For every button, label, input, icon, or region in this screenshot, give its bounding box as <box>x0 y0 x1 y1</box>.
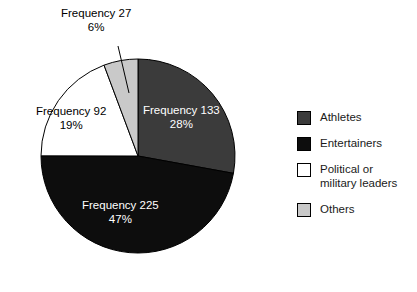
legend-item-others: Others <box>297 202 417 217</box>
legend-item-entertainers: Entertainers <box>297 136 417 151</box>
legend-label-entertainers: Entertainers <box>320 136 382 150</box>
pie-chart-svg <box>0 0 270 292</box>
chart-legend: Athletes Entertainers Political or milit… <box>297 110 417 228</box>
legend-item-political-military-leaders: Political or military leaders <box>297 162 417 191</box>
pie-slice-athletes <box>138 59 235 173</box>
legend-swatch-athletes-icon <box>297 111 311 125</box>
legend-label-political-military-leaders: Political or military leaders <box>320 162 397 191</box>
legend-label-others: Others <box>320 202 355 216</box>
pie-chart-plot-area: Frequency 133 28% Frequency 225 47% Freq… <box>0 0 270 292</box>
legend-item-athletes: Athletes <box>297 110 417 125</box>
legend-swatch-entertainers-icon <box>297 137 311 151</box>
legend-swatch-others-icon <box>297 203 311 217</box>
pie-slice-group <box>41 59 235 253</box>
pie-slice-entertainers <box>41 156 233 253</box>
legend-swatch-political-icon <box>297 163 311 177</box>
pie-chart-figure: Frequency 133 28% Frequency 225 47% Freq… <box>0 0 417 292</box>
legend-label-athletes: Athletes <box>320 110 362 124</box>
